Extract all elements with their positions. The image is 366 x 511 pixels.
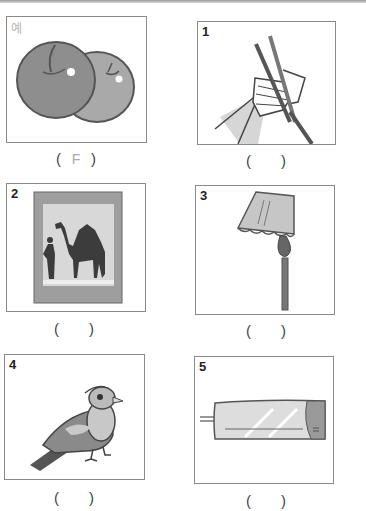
answer-blank-2[interactable]: () (14, 320, 134, 337)
picture-card-4: 4 (4, 354, 145, 480)
camel-frame-icon (7, 184, 145, 311)
air-conditioner-icon (195, 357, 333, 483)
picture-card-example: 예 (6, 16, 147, 143)
picture-card-1: 1 (197, 21, 336, 145)
bird-icon (5, 355, 144, 479)
answer-blank-example[interactable]: (F) (16, 150, 136, 167)
answer-blank-4[interactable]: () (14, 489, 134, 506)
answer-value: F (61, 151, 91, 167)
picture-card-2: 2 (6, 183, 146, 312)
answer-blank-1[interactable]: () (206, 152, 326, 169)
floor-lamp-icon (196, 186, 334, 314)
answer-blank-5[interactable]: () (206, 492, 326, 509)
hand-chopsticks-icon (198, 22, 335, 144)
picture-card-5: 5 (194, 356, 334, 484)
answer-blank-3[interactable]: () (206, 322, 326, 339)
picture-card-3: 3 (195, 185, 335, 315)
apples-icon (7, 17, 146, 142)
top-border (0, 0, 366, 3)
